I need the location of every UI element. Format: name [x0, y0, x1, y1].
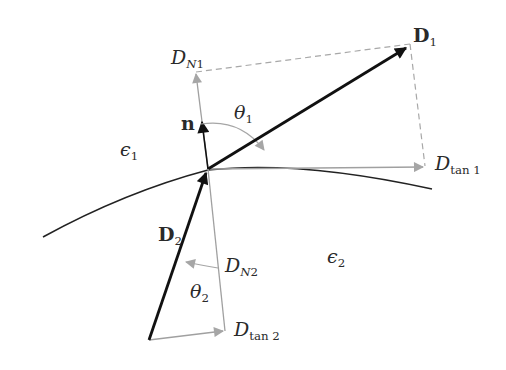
label-theta1-sub: 1 — [245, 112, 253, 126]
label-dn2-sub-n: N — [240, 265, 250, 279]
diagram-svg — [0, 0, 506, 370]
label-n: n — [181, 114, 195, 133]
label-theta1: θ1 — [234, 103, 253, 126]
n-vector — [202, 122, 208, 169]
dtan2-vector — [149, 331, 223, 340]
diagram-canvas: D1 DN1 θ1 n ϵ1 Dtan 1 D2 DN2 ϵ2 θ2 Dtan … — [0, 0, 506, 370]
label-dn1-sub-n: N — [186, 57, 196, 71]
label-theta1-base: θ — [234, 101, 245, 123]
label-dtan1-base: D — [435, 152, 450, 174]
label-theta2-base: θ — [190, 280, 201, 302]
label-d2-sub: 2 — [174, 234, 182, 248]
dn2-line — [208, 169, 225, 331]
label-dn1: DN1 — [171, 48, 204, 71]
interface-curve — [43, 167, 432, 237]
label-dn2-base: D — [225, 254, 240, 276]
label-dtan1: Dtan 1 — [435, 154, 481, 177]
d2-vector — [149, 173, 206, 340]
label-theta2-sub: 2 — [201, 291, 209, 305]
label-d1: D1 — [413, 26, 437, 49]
label-dtan2-base: D — [234, 318, 249, 340]
label-n-text: n — [181, 112, 195, 134]
label-dtan1-sub: tan 1 — [450, 163, 481, 177]
label-dn1-base: D — [171, 46, 186, 68]
label-d1-base: D — [413, 24, 429, 46]
theta1-arc — [201, 123, 264, 150]
label-eps2-base: ϵ — [327, 245, 338, 267]
theta2-arc — [186, 262, 218, 268]
label-dtan2-sub: tan 2 — [249, 329, 280, 343]
label-eps2: ϵ2 — [327, 247, 345, 270]
label-eps1-base: ϵ — [120, 138, 131, 160]
label-dtan2: Dtan 2 — [234, 320, 280, 343]
label-eps1-sub: 1 — [131, 149, 139, 163]
label-d1-sub: 1 — [429, 35, 437, 49]
label-dn1-sub: 1 — [197, 57, 205, 71]
label-d2: D2 — [158, 225, 182, 248]
label-dn2-sub: 2 — [251, 265, 259, 279]
label-theta2: θ2 — [190, 282, 209, 305]
label-eps2-sub: 2 — [338, 256, 346, 270]
label-eps1: ϵ1 — [120, 140, 138, 163]
label-dn2: DN2 — [225, 256, 258, 279]
label-d2-base: D — [158, 223, 174, 245]
